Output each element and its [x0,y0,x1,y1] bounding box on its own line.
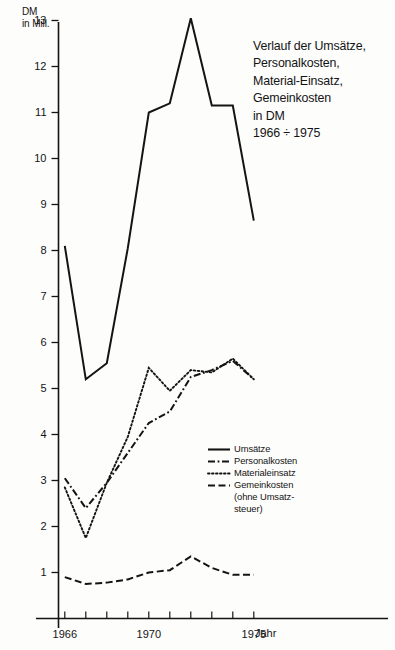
y-axis-tick-label: 13 [21,15,47,26]
legend-line-sample-icon [206,467,234,479]
series-line-gemeinkosten [65,556,254,584]
plot-area [0,0,395,650]
legend-item-label: Umsätze [234,443,270,455]
y-axis-tick-label: 10 [21,153,47,164]
legend-item[interactable]: Gemeinkosten [206,479,297,491]
y-axis-tick-label: 7 [21,291,47,302]
x-axis-tick-label: 1966 [45,629,85,640]
chart-legend: UmsätzePersonalkostenMaterialeinsatzGeme… [206,443,297,516]
y-axis-tick-label: 11 [21,107,47,118]
legend-line-sample-icon [206,479,234,491]
x-axis-title: Jahr [255,628,276,639]
axes [36,22,388,628]
legend-item-label: Personalkosten [234,455,297,467]
y-axis-tick-label: 2 [21,521,47,532]
y-axis-tick-label: 8 [21,245,47,256]
legend-item-note: (ohne Umsatz- steuer) [206,491,297,515]
y-axis-tick-label: 5 [21,383,47,394]
legend-item[interactable]: Personalkosten [206,455,297,467]
y-axis-tick-label: 12 [21,61,47,72]
x-axis-tick-label: 1970 [129,629,169,640]
legend-item-label: Materialeinsatz [234,467,296,479]
legend-item[interactable]: Umsätze [206,443,297,455]
x-axis-ticks [65,612,254,619]
series-line-umsätze [65,18,254,379]
y-axis-tick-label: 4 [21,429,47,440]
legend-item[interactable]: Materialeinsatz [206,467,297,479]
y-axis-tick-label: 3 [21,475,47,486]
y-axis-ticks [52,21,59,573]
legend-line-sample-icon [206,443,234,455]
y-axis-tick-label: 1 [21,567,47,578]
y-axis-tick-label: 6 [21,337,47,348]
chart-figure: DM in Mill. Verlauf der Umsätze, Persona… [0,0,395,650]
legend-line-sample-icon [206,455,234,467]
legend-item-label: Gemeinkosten [234,479,293,491]
y-axis-tick-label: 9 [21,199,47,210]
